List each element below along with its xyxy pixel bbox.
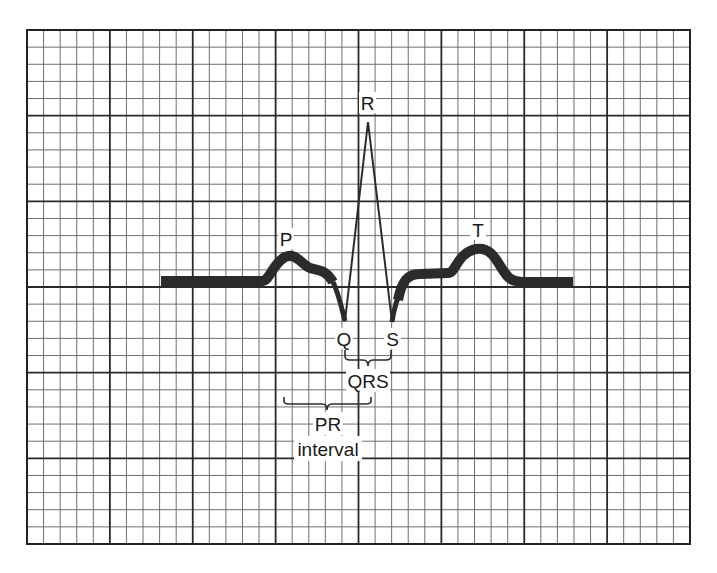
label-p: P xyxy=(278,228,294,250)
ecg-baseline-p-wave xyxy=(161,256,333,282)
qrs-bracket xyxy=(345,350,391,366)
svg-text:QRS: QRS xyxy=(347,371,388,392)
svg-text:R: R xyxy=(361,93,375,114)
svg-text:PR: PR xyxy=(315,414,341,435)
ecg-st-t-wave xyxy=(398,249,573,300)
label-s: S xyxy=(384,328,401,350)
svg-text:P: P xyxy=(280,229,293,250)
ecg-qrs-complex xyxy=(330,122,400,322)
svg-text:interval: interval xyxy=(297,439,358,460)
svg-text:T: T xyxy=(472,220,484,241)
ecg-diagram: P R T Q S QRS PR interval xyxy=(0,0,717,573)
label-t: T xyxy=(470,219,486,241)
label-q: Q xyxy=(335,328,353,350)
svg-text:S: S xyxy=(386,329,399,350)
label-pr-interval: PR interval xyxy=(294,412,362,461)
ecg-s-ascent xyxy=(392,289,402,322)
label-qrs: QRS xyxy=(346,369,390,392)
svg-text:Q: Q xyxy=(337,329,352,350)
label-r: R xyxy=(359,92,376,114)
